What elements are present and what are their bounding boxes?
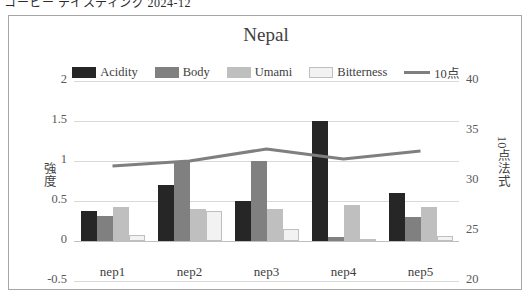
legend-line-marker [404, 71, 430, 74]
legend-color-swatch [227, 67, 251, 78]
legend-label: Body [183, 65, 210, 80]
legend-label: 10点 [434, 63, 460, 82]
left-axis-tick-label: 1.5 [51, 112, 67, 127]
legend-label: Bitterness [337, 65, 387, 80]
category-label: nep4 [305, 264, 382, 280]
category-label: nep2 [151, 264, 228, 280]
category-label: nep3 [228, 264, 305, 280]
chart-legend: AcidityBodyUmamiBitterness10点 [9, 63, 523, 82]
right-axis-tick-label: 35 [466, 122, 479, 137]
right-axis-tick-label: 40 [466, 72, 479, 87]
plot-area [74, 81, 459, 281]
legend-label: Umami [255, 65, 293, 80]
legend-color-swatch [309, 67, 333, 78]
right-axis-title: 10点法式 [493, 136, 512, 188]
legend-item: Bitterness [309, 65, 387, 80]
left-axis-tick-label: 0 [61, 232, 67, 247]
chart-title: Nepal [9, 24, 523, 46]
legend-label: Acidity [100, 65, 138, 80]
category-label: nep1 [74, 264, 151, 280]
left-axis-tick-label: 0.5 [51, 192, 67, 207]
chart-frame: Nepal AcidityBodyUmamiBitterness10点 21.5… [8, 15, 522, 290]
left-axis-title: 強度 [39, 162, 58, 188]
line-path-10ten [113, 149, 421, 166]
right-axis-tick-label: 25 [466, 222, 479, 237]
legend-item: Acidity [72, 65, 138, 80]
left-axis-tick-label: 2 [61, 72, 67, 87]
right-axis-tick-label: 30 [466, 172, 479, 187]
legend-item: Body [155, 65, 210, 80]
right-axis-tick-label: 20 [466, 272, 479, 287]
cut-off-header-strip: コーヒー テイスティング 2024-12 [0, 0, 530, 14]
line-series-10ten [74, 81, 459, 281]
legend-item: 10点 [404, 63, 460, 82]
category-labels: nep1nep2nep3nep4nep5 [74, 264, 459, 280]
left-axis-tick-label: -0.5 [47, 272, 67, 287]
header-text: コーヒー テイスティング 2024-12 [4, 0, 191, 11]
legend-color-swatch [72, 67, 96, 78]
legend-item: Umami [227, 65, 293, 80]
legend-color-swatch [155, 67, 179, 78]
left-axis-tick-label: 1 [61, 152, 67, 167]
category-label: nep5 [382, 264, 459, 280]
gridline [74, 281, 459, 282]
